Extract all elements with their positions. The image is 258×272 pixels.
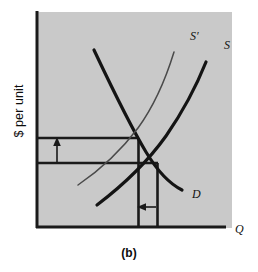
figure-panel-b: S′ S D Q $ per unit (b) (0, 0, 258, 272)
curve-label-d: D (191, 187, 201, 201)
panel-caption: (b) (0, 246, 258, 260)
supply-demand-chart: S′ S D Q (0, 0, 258, 272)
plot-background (36, 12, 232, 228)
curve-label-s: S (224, 38, 230, 52)
curve-label-s-prime: S′ (190, 29, 199, 43)
y-axis-title: $ per unit (12, 61, 26, 161)
x-axis-label: Q (235, 222, 244, 236)
